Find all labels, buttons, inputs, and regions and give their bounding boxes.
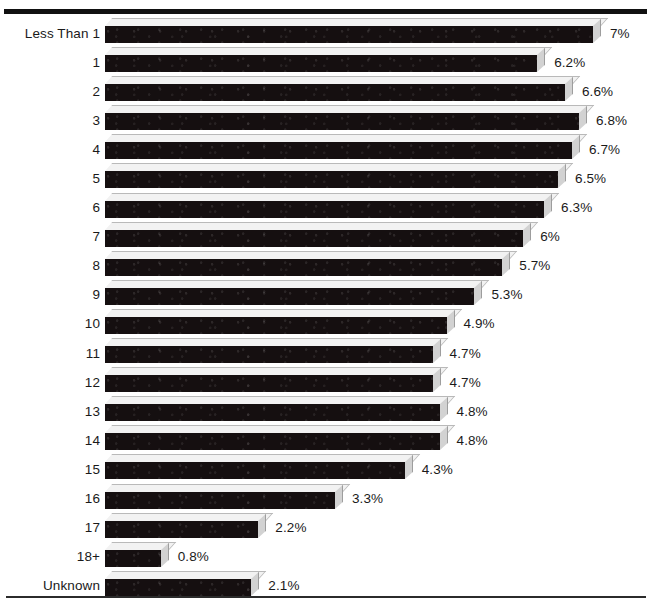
- bar-value-label: 5.3%: [491, 287, 522, 302]
- chart-bar-row: 154.3%: [0, 454, 651, 483]
- chart-bar-row: 18+0.8%: [0, 542, 651, 571]
- category-label: 3: [92, 112, 100, 127]
- chart-bar-row: 16.2%: [0, 47, 651, 76]
- category-label: 16: [85, 491, 100, 506]
- bar-front-face: [105, 462, 405, 479]
- bar-value-label: 2.1%: [268, 578, 299, 593]
- category-label: 8: [92, 258, 100, 273]
- bar-3d: [105, 338, 441, 367]
- bar-value-label: 6.6%: [582, 83, 613, 98]
- chart-bar-row: 95.3%: [0, 280, 651, 309]
- bar-value-label: 3.3%: [352, 491, 383, 506]
- chart-bar-row: 114.7%: [0, 338, 651, 367]
- chart-bar-row: 144.8%: [0, 425, 651, 454]
- bar-value-label: 2.2%: [275, 520, 306, 535]
- bar-front-face: [105, 142, 572, 159]
- category-label: 1: [92, 54, 100, 69]
- bar-side-face: [523, 230, 531, 247]
- bar-3d: [105, 105, 587, 134]
- bar-top-face: [105, 338, 441, 346]
- category-label: 5: [92, 171, 100, 186]
- bar-3d: [105, 251, 510, 280]
- chart-bar-row: 46.7%: [0, 134, 651, 163]
- bar-value-label: 4.8%: [457, 403, 488, 418]
- bar-3d: [105, 134, 580, 163]
- bar-side-face: [161, 550, 169, 567]
- bar-value-label: 6%: [540, 229, 560, 244]
- bar-side-face: [558, 171, 566, 188]
- bar-side-face: [405, 462, 413, 479]
- plot-area: Less Than 17%16.2%26.6%36.8%46.7%56.5%66…: [0, 18, 651, 588]
- bar-value-label: 0.8%: [178, 549, 209, 564]
- bar-side-face: [565, 84, 573, 101]
- bar-top-face: [105, 76, 573, 84]
- category-label: 17: [85, 520, 100, 535]
- bar-3d: [105, 367, 441, 396]
- bar-3d: [105, 47, 545, 76]
- bar-value-label: 4.8%: [457, 432, 488, 447]
- top-rule-divider: [4, 9, 647, 14]
- bar-3d: [105, 280, 482, 309]
- bar-side-face: [447, 317, 455, 334]
- category-label: 4: [92, 141, 100, 156]
- bar-3d: [105, 222, 531, 251]
- bar-side-face: [502, 259, 510, 276]
- bar-side-face: [544, 201, 552, 218]
- bar-value-label: 6.7%: [589, 141, 620, 156]
- bar-3d: [105, 513, 266, 542]
- bar-top-face: [105, 251, 510, 259]
- bar-top-face: [105, 425, 448, 433]
- bar-front-face: [105, 550, 161, 567]
- bar-front-face: [105, 201, 544, 218]
- bar-side-face: [537, 55, 545, 72]
- chart-bar-row: 85.7%: [0, 251, 651, 280]
- bar-front-face: [105, 404, 440, 421]
- chart-bar-row: 104.9%: [0, 309, 651, 338]
- bar-value-label: 5.7%: [519, 258, 550, 273]
- category-label: Less Than 1: [25, 25, 100, 40]
- category-label: 12: [85, 374, 100, 389]
- bar-top-face: [105, 513, 266, 521]
- bar-value-label: 6.8%: [596, 112, 627, 127]
- chart-bar-row: 163.3%: [0, 484, 651, 513]
- bar-3d: [105, 454, 413, 483]
- bar-top-face: [105, 454, 413, 462]
- bar-value-label: 6.5%: [575, 171, 606, 186]
- bar-side-face: [258, 521, 266, 538]
- category-label: 10: [85, 316, 100, 331]
- bar-front-face: [105, 346, 433, 363]
- bar-front-face: [105, 259, 502, 276]
- bar-value-label: 4.7%: [450, 345, 481, 360]
- bar-3d: [105, 396, 448, 425]
- chart-bar-row: 26.6%: [0, 76, 651, 105]
- bar-top-face: [105, 542, 169, 550]
- bar-3d: [105, 193, 552, 222]
- bar-value-label: 6.3%: [561, 200, 592, 215]
- bar-3d: [105, 425, 448, 454]
- bar-top-face: [105, 163, 566, 171]
- category-label: 13: [85, 403, 100, 418]
- bar-front-face: [105, 492, 335, 509]
- chart-bar-row: 56.5%: [0, 163, 651, 192]
- bar-side-face: [440, 404, 448, 421]
- bar-top-face: [105, 280, 482, 288]
- bar-side-face: [593, 26, 601, 43]
- bar-chart-figure: Less Than 17%16.2%26.6%36.8%46.7%56.5%66…: [0, 0, 651, 612]
- bar-front-face: [105, 579, 251, 596]
- bar-value-label: 4.9%: [464, 316, 495, 331]
- category-label: Unknown: [43, 578, 100, 593]
- bar-front-face: [105, 317, 447, 334]
- chart-bar-row: 134.8%: [0, 396, 651, 425]
- bar-front-face: [105, 375, 433, 392]
- bar-side-face: [440, 433, 448, 450]
- chart-bar-row: 66.3%: [0, 193, 651, 222]
- bar-front-face: [105, 230, 523, 247]
- bar-top-face: [105, 105, 587, 113]
- bar-top-face: [105, 309, 455, 317]
- bar-top-face: [105, 484, 343, 492]
- category-label: 7: [92, 229, 100, 244]
- bar-side-face: [433, 375, 441, 392]
- bar-side-face: [579, 113, 587, 130]
- bar-top-face: [105, 367, 441, 375]
- bar-front-face: [105, 171, 558, 188]
